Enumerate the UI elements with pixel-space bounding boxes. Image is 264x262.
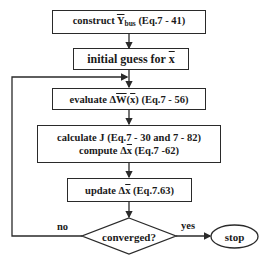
subscript-bus: bus xyxy=(124,19,135,28)
step-eq: (Eq.7 - 41) xyxy=(136,15,186,26)
step-eq: ) (Eq.7 - 56) xyxy=(135,94,188,105)
step-eq: (Eq.7 -62) xyxy=(132,145,179,156)
yes-label: yes xyxy=(181,220,195,231)
stop-label: stop xyxy=(225,231,245,243)
step-line-1: calculate J (Eq.7 - 30 and 7 - 82) xyxy=(57,131,201,144)
step-update-dx: update Δx (Eq.7.63) xyxy=(67,178,192,202)
step-initial-guess: initial guess for x xyxy=(73,48,189,70)
step-calculate-j: calculate J (Eq.7 - 30 and 7 - 82) compu… xyxy=(37,125,221,163)
step-text: initial guess for xyxy=(87,52,168,66)
step-evaluate-dw: evaluate ΔW(x) (Eq.7 - 56) xyxy=(52,88,206,110)
step-text: construct xyxy=(73,15,117,26)
symbol-w: W xyxy=(116,94,127,105)
step-construct-ybus: construct Ybus (Eq.7 - 41) xyxy=(52,10,206,34)
decision-label: converged? xyxy=(102,231,156,243)
step-text: update Δ xyxy=(85,185,125,196)
symbol-x: x xyxy=(169,52,175,66)
no-label: no xyxy=(57,221,68,232)
step-eq: (Eq.7.63) xyxy=(130,185,173,196)
step-text: evaluate Δ xyxy=(70,94,117,105)
step-text: compute Δ xyxy=(79,145,127,156)
